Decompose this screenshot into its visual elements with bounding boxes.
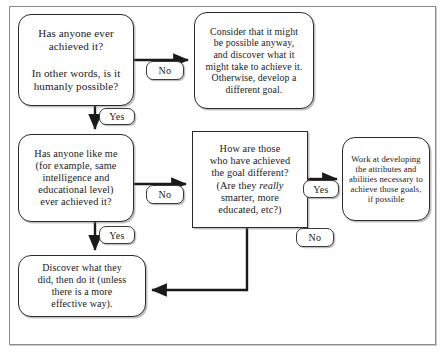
flowchart-canvas: Has anyone ever achieved it? In other wo… — [0, 0, 448, 360]
node-text: Work at developing the attributes and ab… — [344, 154, 428, 205]
edge-label-no-3: No — [296, 228, 334, 247]
edge-label-no-1: No — [146, 61, 184, 80]
node-how-are-those-different: How are those who have achieved the goal… — [192, 131, 308, 228]
node-has-anyone-like-me: Has anyone like me (for example, same in… — [18, 134, 134, 222]
node-consider-possible-anyway: Consider that it might be possible anywa… — [194, 12, 314, 109]
node-text: Has anyone ever achieved it? In other wo… — [27, 27, 126, 92]
edge-label-yes-2: Yes — [99, 226, 135, 244]
node-work-at-developing-attributes: Work at developing the attributes and ab… — [342, 137, 430, 221]
node-text-italic-really: really — [259, 180, 283, 191]
node-text: How are those who have achieved the goal… — [205, 143, 296, 216]
node-discover-what-they-did: Discover what they did, then do it (unle… — [18, 255, 146, 317]
edge-label-yes-1: Yes — [99, 108, 135, 125]
node-text: Consider that it might be possible anywa… — [201, 26, 308, 95]
node-text-part-2: smarter, more educated, etc?) — [218, 192, 281, 215]
node-text: Has anyone like me (for example, same in… — [29, 148, 122, 209]
node-text: Discover what they did, then do it (unle… — [33, 262, 132, 309]
edge-label-no-2: No — [146, 185, 184, 204]
edge-label-yes-3: Yes — [303, 180, 339, 198]
node-has-anyone-ever-achieved: Has anyone ever achieved it? In other wo… — [18, 14, 134, 106]
